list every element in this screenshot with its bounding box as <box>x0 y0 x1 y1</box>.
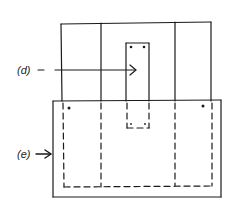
pin-dot <box>130 123 132 125</box>
pin-dot <box>202 105 205 108</box>
pin-dot <box>130 46 133 49</box>
label-d: (d) <box>17 64 31 76</box>
pin-markers <box>68 46 205 125</box>
diagram-canvas: (d) (e) <box>0 0 232 209</box>
lower-frame <box>53 100 221 197</box>
inner-slot <box>126 43 149 101</box>
dashed-outline <box>63 103 212 187</box>
upper-frame <box>61 22 211 101</box>
pin-dot <box>144 123 146 125</box>
pointer-d <box>38 65 136 75</box>
pin-dot <box>68 107 71 110</box>
pin-dot <box>143 46 146 49</box>
pointer-e <box>36 150 51 158</box>
label-e: (e) <box>17 148 31 160</box>
